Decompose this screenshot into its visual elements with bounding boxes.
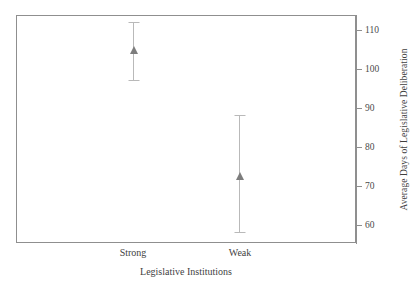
- y-tick-110: [357, 30, 362, 31]
- y-tick-90: [357, 108, 362, 109]
- errorbar-cap-top-weak: [234, 115, 245, 116]
- errorbar-cap-top-strong: [128, 22, 139, 23]
- x-tick-label-weak: Weak: [229, 247, 252, 259]
- plot-area: [16, 15, 356, 243]
- y-tick-60: [357, 225, 362, 226]
- y-tick-label-80: 80: [365, 142, 375, 152]
- y-tick-label-110: 110: [365, 25, 379, 35]
- data-marker-strong: [130, 46, 138, 54]
- chart-figure: 110 100 90 80 70 60 Average Days of Legi…: [0, 0, 412, 285]
- y-tick-label-90: 90: [365, 103, 375, 113]
- y-tick-label-100: 100: [365, 64, 379, 74]
- errorbar-cap-bottom-strong: [128, 80, 139, 81]
- y-axis-line: [356, 15, 357, 244]
- y-axis-title: Average Days of Legislative Deliberation: [399, 15, 412, 244]
- data-marker-weak: [236, 172, 244, 180]
- y-tick-70: [357, 186, 362, 187]
- x-axis-title: Legislative Institutions: [0, 266, 372, 277]
- errorbar-cap-bottom-weak: [234, 232, 245, 233]
- x-tick-label-strong: Strong: [120, 247, 147, 259]
- y-tick-80: [357, 147, 362, 148]
- y-tick-label-60: 60: [365, 220, 375, 230]
- y-tick-100: [357, 69, 362, 70]
- y-tick-label-70: 70: [365, 181, 375, 191]
